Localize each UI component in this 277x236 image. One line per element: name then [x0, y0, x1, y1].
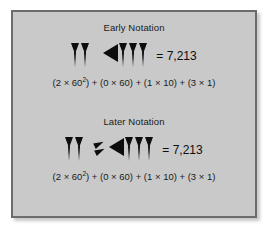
- equals-value-early: = 7,213: [156, 49, 196, 64]
- corner-wedge-icon: [109, 137, 124, 161]
- glyph-group-sixties-squared-later: [65, 137, 85, 163]
- formula-term-3: (1 × 10) +: [144, 171, 188, 182]
- vertical-wedge-icon: [145, 137, 154, 161]
- panel-title-early: Early Notation: [13, 22, 255, 34]
- formula-term-3: (1 × 10) +: [144, 77, 188, 88]
- vertical-wedge-icon: [135, 137, 144, 161]
- glyph-group-tens-units-early: [103, 43, 149, 69]
- glyph-group-tens-units-later: [109, 137, 155, 163]
- formula-early: (2 × 602) + (0 × 60) + (1 × 10) + (3 × 1…: [13, 77, 255, 89]
- equals-value-later: = 7,213: [162, 143, 202, 158]
- panel-early-notation: Early Notation = 7,213 (2 × 602) + (0 × …: [13, 22, 255, 89]
- vertical-wedge-icon: [139, 43, 148, 67]
- glyph-group-zero-placeholder: [93, 137, 107, 163]
- figure-frame: Early Notation = 7,213 (2 × 602) + (0 × …: [11, 10, 257, 218]
- vertical-wedge-icon: [119, 43, 128, 67]
- formula-term-1-open: (2 × 60: [53, 77, 83, 88]
- formula-later: (2 × 602) + (0 × 60) + (1 × 10) + (3 × 1…: [13, 171, 255, 183]
- formula-term-1-close: ) +: [86, 77, 100, 88]
- vertical-wedge-icon: [75, 137, 84, 161]
- vertical-wedge-icon: [81, 43, 90, 67]
- formula-term-1-close: ) +: [86, 171, 100, 182]
- formula-term-4: (3 × 1): [188, 171, 216, 182]
- panel-title-later: Later Notation: [13, 116, 255, 128]
- formula-term-4: (3 × 1): [188, 77, 216, 88]
- formula-term-2: (0 × 60) +: [100, 77, 144, 88]
- formula-term-1-open: (2 × 60: [53, 171, 83, 182]
- panel-later-notation: Later Notation = 7,213: [13, 116, 255, 183]
- corner-wedge-icon: [103, 43, 118, 67]
- zero-placeholder-wedge-icon: [93, 137, 107, 161]
- numeral-row-early: = 7,213: [13, 39, 255, 73]
- vertical-wedge-icon: [65, 137, 74, 161]
- formula-term-2: (0 × 60) +: [100, 171, 144, 182]
- vertical-wedge-icon: [129, 43, 138, 67]
- vertical-wedge-icon: [125, 137, 134, 161]
- glyph-group-sixties-squared-early: [71, 43, 91, 69]
- vertical-wedge-icon: [71, 43, 80, 67]
- numeral-row-later: = 7,213: [13, 133, 255, 167]
